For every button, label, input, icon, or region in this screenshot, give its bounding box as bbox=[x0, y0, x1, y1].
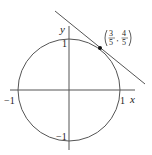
y-tick-neg1: −1 bbox=[56, 131, 67, 142]
y-tick-1: 1 bbox=[62, 38, 67, 49]
x-axis-label: x bbox=[129, 93, 135, 105]
frac-y-den: 5 bbox=[122, 38, 126, 47]
frac-x-den: 5 bbox=[109, 38, 113, 47]
comma: , bbox=[117, 34, 119, 43]
x-tick-1: 1 bbox=[120, 95, 125, 106]
unit-circle-diagram: y x −1 1 1 −1 3 5 , 4 5 bbox=[0, 0, 152, 155]
frac-x-num: 3 bbox=[109, 29, 113, 38]
y-axis-label: y bbox=[59, 23, 65, 35]
frac-y-num: 4 bbox=[122, 29, 126, 38]
tangent-point bbox=[98, 46, 102, 50]
point-label: 3 5 , 4 5 bbox=[105, 29, 131, 47]
x-tick-neg1: −1 bbox=[4, 95, 15, 106]
